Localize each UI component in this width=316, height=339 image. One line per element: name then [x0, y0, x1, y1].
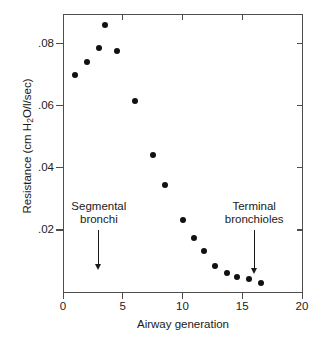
annotation-arrow-shaft-terminal-bronchioles [254, 230, 255, 269]
x-axis-top-tick [242, 14, 243, 20]
x-axis-top-tick [182, 14, 183, 20]
annotation-line-1: Segmental [39, 200, 159, 213]
data-point [191, 235, 197, 241]
y-axis-tick-label: .08 [38, 38, 54, 50]
data-point [150, 152, 156, 158]
x-axis-tick-label: 20 [287, 301, 316, 313]
x-axis-tick-label: 0 [48, 301, 78, 313]
y-axis-tick [56, 105, 63, 106]
data-point [96, 45, 102, 51]
annotation-terminal-bronchioles: Terminalbronchioles [194, 200, 314, 226]
y-axis-line [63, 14, 64, 293]
data-point [102, 22, 108, 28]
annotation-line-2: bronchi [39, 213, 159, 226]
data-point [212, 263, 218, 269]
x-axis-tick [122, 292, 123, 299]
y-axis-title-subscript: 2 [25, 118, 35, 123]
y-axis-tick [56, 229, 63, 230]
x-axis-tick [63, 292, 64, 299]
x-axis-tick-label: 5 [108, 301, 138, 313]
data-point [246, 276, 252, 282]
chart-figure: Resistance (cm H2O/l/sec) Airway generat… [0, 0, 316, 339]
y-axis-title-pre: Resistance (cm H [21, 123, 33, 214]
y-axis-tick-label: .06 [38, 100, 54, 112]
y-axis-tick [56, 43, 63, 44]
x-axis-title: Airway generation [63, 318, 303, 330]
y-axis-right-tick [297, 229, 302, 230]
data-point [180, 217, 186, 223]
data-point [201, 248, 207, 254]
data-point [114, 48, 120, 54]
x-axis-tick-label: 10 [168, 301, 198, 313]
annotation-line-1: Terminal [194, 200, 314, 213]
data-point [162, 182, 168, 188]
y-axis-title-post: O/l/sec) [21, 78, 33, 118]
plot-frame-right [302, 14, 303, 293]
y-axis-title: Resistance (cm H2O/l/sec) [21, 51, 33, 241]
annotation-arrow-head-terminal-bronchioles [251, 268, 257, 274]
y-axis-right-tick [297, 105, 302, 106]
annotation-line-2: bronchioles [194, 213, 314, 226]
x-axis-tick-label: 15 [227, 301, 257, 313]
data-point [132, 98, 138, 104]
annotation-arrow-shaft-segmental-bronchi [98, 230, 99, 265]
data-point [224, 270, 230, 276]
y-axis-tick-label: .04 [38, 162, 54, 174]
y-axis-right-tick [297, 43, 302, 44]
y-axis-right-tick [297, 167, 302, 168]
annotation-segmental-bronchi: Segmentalbronchi [39, 200, 159, 226]
annotation-arrow-head-segmental-bronchi [95, 264, 101, 270]
x-axis-tick [302, 292, 303, 299]
x-axis-top-tick [122, 14, 123, 20]
y-axis-tick [56, 167, 63, 168]
data-point [234, 274, 240, 280]
data-point [84, 59, 90, 65]
data-point [72, 72, 78, 78]
x-axis-tick [242, 292, 243, 299]
data-point [258, 280, 264, 286]
x-axis-tick [182, 292, 183, 299]
